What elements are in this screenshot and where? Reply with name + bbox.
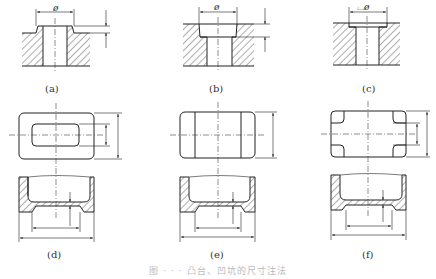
panel-e xyxy=(170,102,277,242)
diameter-symbol-a: ø xyxy=(52,3,59,13)
panel-c xyxy=(333,7,400,70)
label-b: (b) xyxy=(209,83,223,94)
panel-d xyxy=(9,103,122,242)
panel-b xyxy=(183,7,270,72)
spotface-diameter-symbol-c: ⌴ø xyxy=(357,2,370,12)
label-f: (f) xyxy=(362,249,374,260)
figure-caption: 图 · · · 凸台、凹坑的尺寸注法 xyxy=(0,264,436,277)
panel-f xyxy=(321,101,430,240)
label-a: (a) xyxy=(45,83,59,94)
label-e: (e) xyxy=(210,249,224,260)
label-d: (d) xyxy=(47,249,61,260)
label-c: (c) xyxy=(362,83,376,94)
diameter-symbol-b: ø xyxy=(213,2,220,12)
panel-a xyxy=(22,9,110,72)
